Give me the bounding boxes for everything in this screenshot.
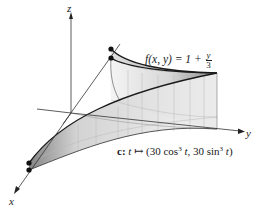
y-axis-arrow-icon xyxy=(238,129,245,135)
x-axis-back xyxy=(37,109,71,113)
surface-over-astroid-diagram: z y x f(x, y) = 1 + y3 c: t ↦ (30 cos3 t… xyxy=(0,0,259,212)
diagram-canvas xyxy=(0,0,259,212)
top-point-upper xyxy=(108,46,113,51)
function-fraction: y3 xyxy=(206,51,212,70)
curve-name: c: xyxy=(117,145,126,157)
function-lhs: f(x, y) = 1 + xyxy=(145,53,205,65)
y-axis-label: y xyxy=(246,128,251,139)
z-axis-label: z xyxy=(67,3,71,14)
curve-x-component: (30 cos xyxy=(146,145,178,157)
maps-to-arrow: ↦ xyxy=(134,145,143,157)
fraction-denominator: 3 xyxy=(206,61,212,70)
top-point-lower xyxy=(108,55,113,60)
curve-param: t xyxy=(128,145,131,157)
curve-y-component: , 30 sin xyxy=(187,145,219,157)
curve-parametrization-label: c: t ↦ (30 cos3 t, 30 sin3 t) xyxy=(117,146,233,157)
bottom-point-lower xyxy=(26,167,31,172)
function-label: f(x, y) = 1 + y3 xyxy=(145,51,212,70)
x-axis-label: x xyxy=(9,196,14,207)
z-axis xyxy=(69,12,73,113)
close-paren: ) xyxy=(229,145,233,157)
bottom-point-upper xyxy=(26,160,31,165)
